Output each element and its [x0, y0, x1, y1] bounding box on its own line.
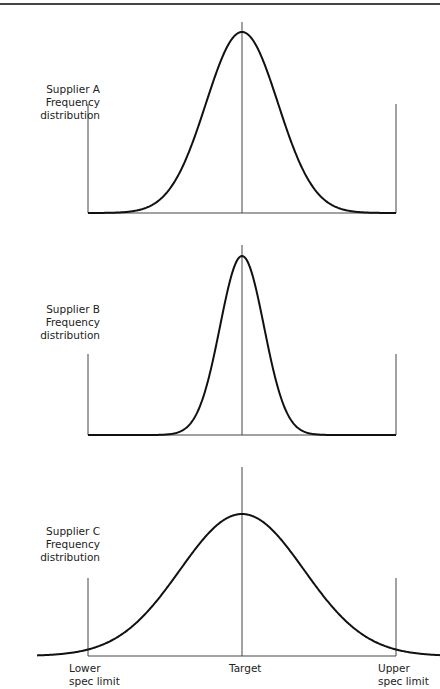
- supplier-b-label: Supplier B Frequency distribution: [0, 303, 100, 342]
- panel-supplier-b: [88, 245, 396, 435]
- panel-supplier-a: [88, 22, 396, 213]
- lower-spec-limit-label: Lower spec limit: [69, 662, 120, 688]
- upper-spec-limit-label: Upper spec limit: [378, 662, 429, 688]
- supplier-c-label: Supplier C Frequency distribution: [0, 525, 100, 564]
- target-label: Target: [229, 662, 261, 675]
- supplier-a-label: Supplier A Frequency distribution: [0, 83, 100, 122]
